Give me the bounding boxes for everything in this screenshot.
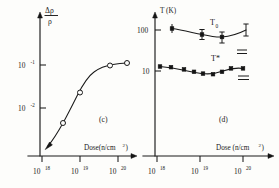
panel-d-t0-data-point: [170, 27, 174, 31]
panel-d-tstar-data-point: [220, 70, 224, 74]
panel-d-y-tick-2-label: 10: [142, 67, 150, 76]
panel-d-curve-t0: [172, 29, 246, 38]
figure-root: 10 -1 10 -2 10 18 10 19 10 20: [0, 0, 279, 188]
panel-c-x-axis-title-close: ): [126, 144, 129, 152]
panel-c-x-axis-arrow-icon: [131, 154, 137, 159]
panel-c-y-axis-denominator: ρ: [48, 17, 52, 26]
panel-c-x-tick-label-1: 10 18: [33, 165, 51, 177]
panel-c-x-tick-2-mantissa: 10: [71, 167, 79, 176]
panel-c-y-tick-label-1: 10 -1: [18, 59, 35, 71]
panel-d-y-axis-arrow-icon: [153, 12, 158, 18]
panel-d-tstar-data-point: [192, 70, 196, 74]
panel-d-x-tick-2-exponent: 19: [203, 165, 209, 171]
panel-d-tstar-data-point: [201, 72, 205, 76]
panel-c-y-tick-label-2: 10 -2: [18, 102, 35, 114]
panel-d-tstar-label: T*: [211, 54, 220, 63]
panel-d-x-axis-arrow-icon: [268, 154, 274, 159]
panel-c-y-axis-numerator: Δρ: [45, 6, 54, 15]
panel-d-x-tick-label-3: 10 20: [234, 165, 252, 177]
panel-c-x-tick-2-exponent: 19: [83, 165, 89, 171]
panel-c-data-point: [61, 121, 66, 126]
panel-c-x-tick-3-mantissa: 10: [109, 167, 117, 176]
panel-d-x-tick-1-exponent: 18: [160, 165, 166, 171]
panel-c-x-tick-label-2: 10 19: [71, 165, 89, 177]
panel-c-y-tick-2-mantissa: 10: [18, 104, 26, 113]
panel-d-tstar-data-point: [211, 72, 215, 76]
panel-d-x-tick-1-mantissa: 10: [148, 167, 156, 176]
panel-d-t0-data-point: [200, 33, 204, 37]
panel-c-y-tick-2-exponent: -2: [31, 102, 36, 108]
panel-d-t0-data-point: [220, 35, 224, 39]
two-panel-figure: 10 -1 10 -2 10 18 10 19 10 20: [0, 0, 279, 188]
panel-d-x-tick-label-1: 10 18: [148, 165, 166, 177]
panel-c-y-axis-title: Δρ ρ: [45, 6, 59, 26]
panel-c-x-tick-label-3: 10 20: [109, 165, 127, 177]
panel-c-x-tick-1-mantissa: 10: [33, 167, 41, 176]
panel-c-y-tick-1-mantissa: 10: [18, 61, 26, 70]
panel-d-x-tick-2-mantissa: 10: [191, 167, 199, 176]
panel-d-x-tick-3-exponent: 20: [246, 165, 252, 171]
panel-d-tstar-data-point: [158, 65, 162, 69]
panel-c-x-tick-1-exponent: 18: [45, 165, 51, 171]
panel-d-reference-marker-upper: [237, 50, 247, 54]
panel-d-tstar-data-point: [182, 68, 186, 72]
panel-d-t0-series-label: T 0: [210, 18, 219, 29]
panel-d-x-tick-3-mantissa: 10: [234, 167, 242, 176]
panel-c-label: (c): [99, 115, 108, 124]
panel-c-data-point: [108, 63, 113, 68]
panel-c-data-point: [125, 61, 130, 66]
panel-d-x-axis-title-close: ): [262, 144, 265, 152]
panel-d-tstar-data-point: [169, 65, 173, 69]
panel-c-data-point: [78, 90, 83, 95]
panel-d-reference-marker-lower: [238, 76, 249, 80]
panel-c-curve: [48, 63, 127, 146]
panel-d-y-axis-title: T (K): [160, 7, 177, 15]
panel-d-y-tick-1-label: 100: [137, 26, 148, 35]
panel-d-t0-label-main: T: [210, 18, 215, 27]
panel-c-x-axis-title-main: Dose(n/cm: [84, 144, 116, 152]
panel-c-y-axis-arrow-icon: [38, 12, 43, 18]
panel-c-lower-limit-arrow-icon: [45, 142, 52, 150]
panel-c-group: 10 -1 10 -2 10 18 10 19 10 20: [18, 6, 137, 176]
panel-d-tstar-points: [158, 65, 245, 76]
panel-d-x-axis-title: Dose (n/cm 2 ): [216, 143, 265, 153]
panel-d-label: (d): [219, 115, 228, 124]
panel-c-y-tick-1-exponent: -1: [31, 59, 36, 65]
panel-d-x-axis-title-main: Dose (n/cm: [216, 144, 250, 152]
panel-c-x-tick-3-exponent: 20: [121, 165, 127, 171]
panel-d-tstar-data-point: [241, 67, 245, 71]
panel-d-tstar-data-point: [229, 67, 233, 71]
panel-c-x-axis-title: Dose(n/cm 2 ): [84, 143, 129, 153]
panel-d-x-tick-label-2: 10 19: [191, 165, 209, 177]
panel-d-group: 100 10 10 18 10 19 10 20 T (K) Dose (: [137, 7, 274, 176]
panel-d-t0-label-subscript: 0: [216, 23, 219, 29]
